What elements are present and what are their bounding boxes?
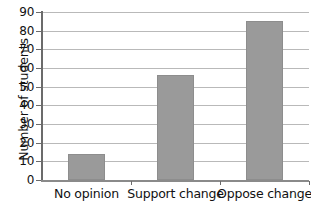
y-tick-label: 10 <box>0 154 34 168</box>
x-tick-mark <box>309 181 310 185</box>
x-tick-label: Support change <box>127 186 224 201</box>
y-tick-label: 20 <box>0 136 34 150</box>
y-tick-label: 40 <box>0 98 34 112</box>
bars-layer <box>42 12 309 180</box>
x-axis-line <box>41 180 309 182</box>
y-tick-label: 30 <box>0 117 34 131</box>
y-tick-label: 50 <box>0 80 34 94</box>
bar <box>68 154 105 180</box>
y-tick-label: 70 <box>0 42 34 56</box>
x-tick-mark <box>131 181 132 185</box>
bar-chart: Number of students 0102030405060708090 N… <box>0 0 311 205</box>
bar <box>157 75 194 180</box>
y-tick-label: 60 <box>0 61 34 75</box>
x-tick-label: No opinion <box>54 186 119 201</box>
x-tick-label: Oppose change <box>217 186 311 201</box>
y-tick-label: 80 <box>0 24 34 38</box>
bar <box>246 21 283 180</box>
y-axis-tick-labels: 0102030405060708090 <box>0 0 34 205</box>
y-tick-label: 0 <box>0 173 34 187</box>
x-tick-mark <box>220 181 221 185</box>
y-tick-label: 90 <box>0 5 34 19</box>
